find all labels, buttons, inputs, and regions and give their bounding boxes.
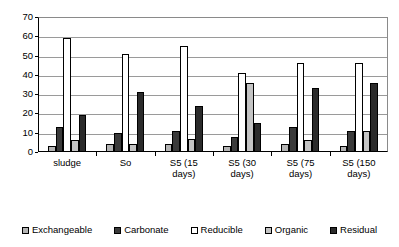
bar-group — [271, 17, 329, 152]
bar — [289, 127, 297, 152]
bar — [363, 131, 371, 152]
bar — [195, 106, 203, 152]
legend-label: Carbonate — [124, 225, 168, 235]
bar — [79, 115, 87, 152]
bar — [188, 139, 196, 153]
y-axis-tick-label: 70 — [7, 12, 33, 22]
bar — [48, 146, 56, 152]
legend-swatch-icon — [114, 227, 121, 234]
legend-item: Reducible — [191, 225, 243, 235]
y-axis-tick-label: 50 — [7, 51, 33, 61]
bar — [355, 63, 363, 152]
y-axis-tick-mark — [35, 152, 38, 153]
bar — [165, 144, 173, 152]
bar — [297, 63, 305, 152]
bar — [137, 92, 145, 152]
legend-swatch-icon — [330, 227, 337, 234]
bar-group — [155, 17, 213, 152]
x-axis-tick-label: S5 (75days) — [271, 157, 329, 179]
legend-label: Exchangeable — [32, 225, 92, 235]
bar-group — [96, 17, 154, 152]
x-axis-tick-mark — [330, 152, 331, 156]
legend-swatch-icon — [191, 227, 198, 234]
y-axis-tick-label: 0 — [7, 147, 33, 157]
bar — [114, 133, 122, 152]
x-axis-tick-label: sludge — [38, 157, 96, 168]
bar — [340, 146, 348, 152]
y-axis-tick-label: 60 — [7, 31, 33, 41]
chart-legend: ExchangeableCarbonateReducibleOrganicRes… — [0, 222, 399, 238]
bar — [347, 131, 355, 152]
x-axis-tick-mark — [271, 152, 272, 156]
y-axis-tick-label: 30 — [7, 89, 33, 99]
bar — [71, 140, 79, 152]
bar — [56, 127, 64, 152]
bar-group — [38, 17, 96, 152]
legend-swatch-icon — [265, 227, 272, 234]
x-axis-tick-label: S5 (30days) — [213, 157, 271, 179]
legend-item: Carbonate — [114, 225, 168, 235]
bar — [312, 88, 320, 152]
bar — [122, 54, 130, 152]
x-axis-tick-mark — [213, 152, 214, 156]
bar — [254, 123, 262, 152]
bar-group — [330, 17, 388, 152]
y-axis-tick-label: 10 — [7, 128, 33, 138]
x-axis-tick-label: S5 (150days) — [330, 157, 388, 179]
bar-groups — [38, 17, 388, 152]
x-axis-tick-label: S5 (15days) — [155, 157, 213, 179]
legend-swatch-icon — [22, 227, 29, 234]
bar — [238, 73, 246, 152]
legend-label: Residual — [340, 225, 377, 235]
legend-item: Organic — [265, 225, 308, 235]
x-axis-tick-label: So — [96, 157, 154, 168]
bar-group — [213, 17, 271, 152]
y-axis-tick-label: 40 — [7, 70, 33, 80]
bar — [180, 46, 188, 152]
bar — [231, 137, 239, 152]
bar — [246, 83, 254, 152]
legend-item: Exchangeable — [22, 225, 92, 235]
bar — [172, 131, 180, 152]
bar — [63, 38, 71, 152]
bar-chart: 010203040506070 sludgeSoS5 (15days)S5 (3… — [0, 0, 399, 247]
legend-label: Organic — [275, 225, 308, 235]
x-axis-tick-mark — [96, 152, 97, 156]
bar — [223, 146, 231, 152]
bar — [370, 83, 378, 152]
legend-item: Residual — [330, 225, 377, 235]
y-axis-tick-label: 20 — [7, 108, 33, 118]
x-axis-tick-mark — [155, 152, 156, 156]
bar — [106, 144, 114, 152]
legend-label: Reducible — [201, 225, 243, 235]
bar — [281, 144, 289, 152]
bar — [129, 144, 137, 152]
bar — [304, 140, 312, 152]
